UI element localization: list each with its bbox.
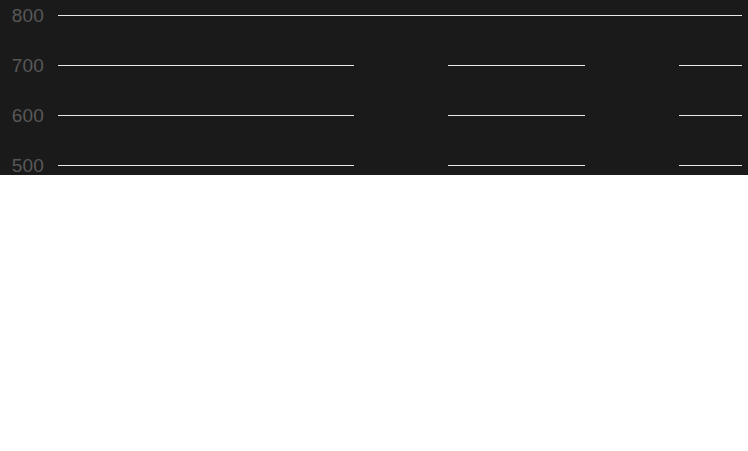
y-axis-tick-label-800: 800: [0, 6, 44, 25]
y-axis-tick-label-500: 500: [0, 156, 44, 175]
plot-area: [58, 0, 742, 175]
bar-2009: [354, 29, 448, 175]
gridline-800: [58, 15, 742, 16]
y-axis-tick-label-700: 700: [0, 56, 44, 75]
bar-chart: 800 700 600 500 400 300 200 100 0 2008 2…: [0, 0, 748, 175]
y-axis-tick-label-600: 600: [0, 106, 44, 125]
bar-2010: [585, 28, 679, 175]
